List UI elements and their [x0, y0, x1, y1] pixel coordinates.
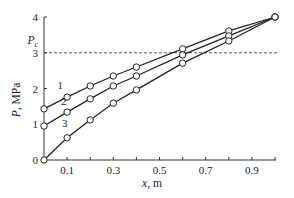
data-point-marker: [41, 157, 47, 163]
data-point-marker: [133, 64, 139, 70]
x-tick-label: 0.9: [245, 164, 259, 176]
data-point-marker: [110, 100, 116, 106]
curve-label: 3: [62, 117, 68, 129]
series-1: 1: [41, 14, 278, 112]
y-tick-label: 0: [33, 154, 39, 166]
x-axis-title: x, m: [141, 177, 162, 190]
data-point-marker: [133, 73, 139, 79]
data-point-marker: [41, 106, 47, 112]
series-line: [44, 17, 275, 160]
data-point-marker: [87, 83, 93, 89]
critical-pressure-line: Pc: [26, 34, 277, 53]
series-3: 3: [41, 14, 278, 163]
data-point-marker: [41, 123, 47, 129]
x-tick-label: 0.5: [153, 164, 167, 176]
y-tick-label: 4: [33, 11, 39, 23]
axis-labels: x, m P, MPa: [10, 83, 162, 190]
series-line: [44, 17, 275, 126]
data-point-marker: [87, 96, 93, 102]
x-tick-label: 0.7: [199, 164, 213, 176]
data-point-marker: [110, 83, 116, 89]
x-tick-label: 0.1: [60, 164, 74, 176]
data-point-marker: [64, 109, 70, 115]
data-point-marker: [133, 87, 139, 93]
x-axis-unit: , m: [147, 177, 162, 190]
series-2: 2: [41, 14, 278, 129]
data-point-marker: [179, 52, 185, 58]
y-tick-label: 2: [33, 83, 39, 95]
data-point-marker: [179, 60, 185, 66]
y-axis-unit: , MPa: [10, 83, 23, 110]
data-point-marker: [64, 135, 70, 141]
data-point-marker: [226, 38, 232, 44]
curve-label: 1: [57, 79, 63, 91]
data-point-marker: [87, 117, 93, 123]
data-point-marker: [110, 73, 116, 79]
y-tick-label: 1: [33, 118, 39, 130]
y-axis-title: P, MPa: [10, 83, 23, 119]
curve-label: 2: [61, 95, 67, 107]
data-point-marker: [272, 14, 278, 20]
line-chart: 0.10.30.50.70.901234 Pc 123 x, m P, MPa: [0, 0, 294, 198]
series-group: 123: [41, 14, 278, 163]
x-tick-label: 0.3: [106, 164, 120, 176]
data-point-marker: [179, 46, 185, 52]
y-axis-var: P: [10, 110, 22, 118]
